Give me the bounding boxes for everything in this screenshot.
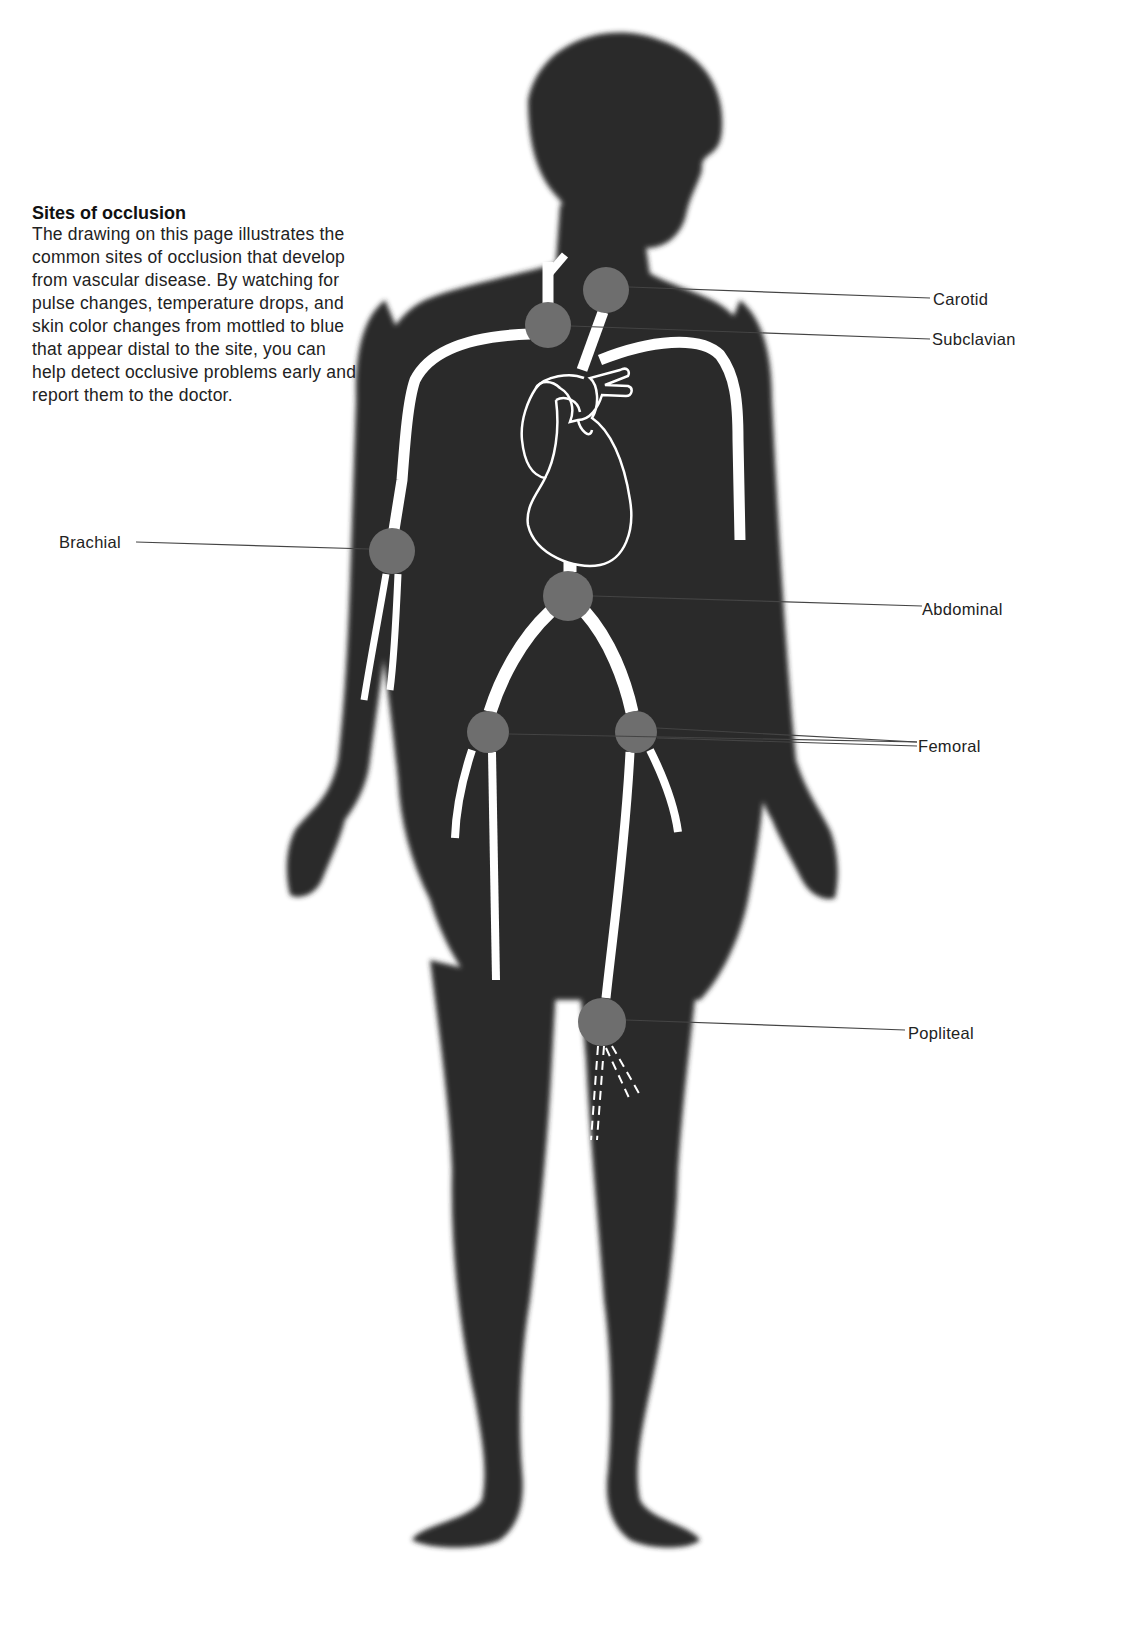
occlusion-site-subclavian	[525, 302, 571, 348]
label-subclavian: Subclavian	[932, 330, 1016, 349]
caption-body: The drawing on this page illustrates the…	[32, 223, 362, 407]
right-leg	[412, 960, 556, 1548]
occlusion-site-femoral-left	[615, 711, 657, 753]
occlusion-site-brachial	[369, 528, 415, 574]
label-popliteal: Popliteal	[908, 1024, 974, 1043]
caption: Sites of occlusion The drawing on this p…	[32, 203, 362, 407]
artery-femoral-right	[492, 752, 496, 980]
label-brachial: Brachial	[59, 533, 121, 552]
label-femoral: Femoral	[918, 737, 981, 756]
occlusion-site-abdominal	[543, 571, 593, 621]
occlusion-site-femoral-right	[467, 711, 509, 753]
leader-brachial	[136, 542, 369, 549]
torso	[369, 262, 772, 1000]
label-abdominal: Abdominal	[922, 600, 1003, 619]
occlusion-site-carotid	[583, 267, 629, 313]
occlusion-site-popliteal	[578, 998, 626, 1046]
caption-title: Sites of occlusion	[32, 203, 362, 223]
label-carotid: Carotid	[933, 290, 988, 309]
